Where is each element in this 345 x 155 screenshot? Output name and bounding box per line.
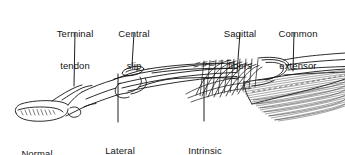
label-terminal-tendon-line1: Terminal: [57, 29, 94, 40]
label-lateral-band: Lateral band: [105, 125, 135, 155]
label-central-slip-line2: slip: [118, 61, 149, 72]
middle-phalanx-volar: [84, 93, 127, 107]
label-common-extensor-line2: extensor: [278, 61, 317, 72]
dip-joint-volar: [66, 104, 96, 117]
label-intrinsic-tendon: Intrinsic tendon: [188, 125, 222, 155]
label-common-extensor-line1: Common: [278, 29, 317, 40]
label-normal-line1: Normal: [21, 149, 52, 155]
label-central-slip: Central slip: [118, 8, 149, 92]
dip-joint-dorsal: [68, 92, 82, 105]
label-normal: Normal: [21, 128, 52, 155]
label-sagittal-fibers: Sagittal fibers: [224, 8, 257, 92]
anatomical-figure: Terminal tendon Central slip Sagittal fi…: [0, 0, 345, 155]
leader-lines: [74, 33, 294, 122]
label-sagittal-fibers-line1: Sagittal: [224, 29, 257, 40]
label-terminal-tendon-line2: tendon: [57, 61, 94, 72]
label-terminal-tendon: Terminal tendon: [57, 8, 94, 92]
label-lateral-band-line1: Lateral: [105, 146, 135, 155]
nail-fold: [18, 107, 63, 112]
fingertip-underside: [16, 109, 68, 121]
label-sagittal-fibers-line2: fibers: [224, 61, 257, 72]
label-central-slip-line1: Central: [118, 29, 149, 40]
fingertip-hatching: [21, 110, 55, 116]
label-intrinsic-tendon-line1: Intrinsic: [188, 146, 222, 155]
label-common-extensor: Common extensor: [278, 8, 317, 92]
